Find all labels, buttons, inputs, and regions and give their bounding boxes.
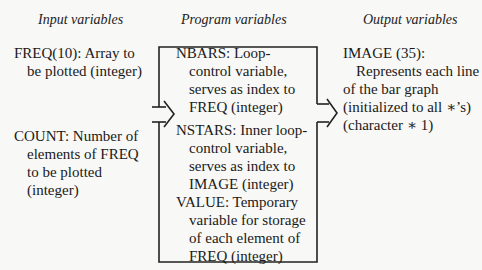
output-var-image-line: Represents each line bbox=[343, 62, 479, 80]
input-var-count-line: (integer) bbox=[14, 181, 139, 199]
input-var-count-line: to be plotted bbox=[14, 163, 139, 181]
output-var-image-line: (initialized to all ∗’s) bbox=[343, 98, 479, 116]
program-var-nstars-line: serves as index to bbox=[176, 157, 307, 175]
input-var-freq: FREQ(10): Array to be plotted (integer) bbox=[14, 44, 142, 80]
program-var-value-line: FREQ (integer) bbox=[176, 247, 306, 265]
output-var-image-line: of the bar graph bbox=[343, 80, 479, 98]
output-var-image-line: IMAGE (35): bbox=[343, 44, 479, 62]
program-var-nstars-line: control variable, bbox=[176, 139, 307, 157]
program-var-value-line: of each element of bbox=[176, 229, 306, 247]
program-var-nbars-line: FREQ (integer) bbox=[176, 98, 295, 116]
program-var-nstars-line: NSTARS: Inner loop- bbox=[176, 121, 307, 139]
input-var-freq-line: FREQ(10): Array to bbox=[14, 44, 142, 62]
program-var-value-line: variable for storage bbox=[176, 211, 306, 229]
program-var-value: VALUE: Temporary variable for storage of… bbox=[176, 193, 306, 265]
program-var-nbars: NBARS: Loop- control variable, serves as… bbox=[176, 44, 295, 116]
output-var-image-line: (character ∗ 1) bbox=[343, 116, 479, 134]
program-var-nbars-line: serves as index to bbox=[176, 80, 295, 98]
input-var-freq-line: be plotted (integer) bbox=[14, 62, 142, 80]
program-to-output-arrow bbox=[317, 99, 337, 127]
input-to-program-arrow bbox=[152, 101, 174, 127]
input-var-count-line: COUNT: Number of bbox=[14, 127, 139, 145]
program-var-value-line: VALUE: Temporary bbox=[176, 193, 306, 211]
input-var-count-line: elements of FREQ bbox=[14, 145, 139, 163]
program-var-nstars-line: IMAGE (integer) bbox=[176, 175, 307, 193]
program-var-nstars: NSTARS: Inner loop- control variable, se… bbox=[176, 121, 307, 193]
program-var-nbars-line: control variable, bbox=[176, 62, 295, 80]
output-var-image: IMAGE (35): Represents each line of the … bbox=[343, 44, 479, 134]
input-var-count: COUNT: Number of elements of FREQ to be … bbox=[14, 127, 139, 199]
program-var-nbars-line: NBARS: Loop- bbox=[176, 44, 295, 62]
